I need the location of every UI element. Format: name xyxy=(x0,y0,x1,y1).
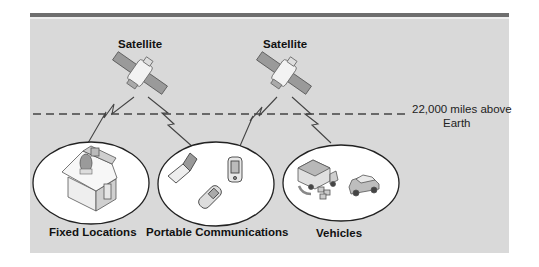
top-band-highlight xyxy=(30,17,509,19)
top-band xyxy=(30,13,509,17)
group-label-portable-communications: Portable Communications xyxy=(146,226,289,238)
group-label-vehicles: Vehicles xyxy=(316,227,362,239)
satellite-label-2: Satellite xyxy=(263,38,307,50)
group-label-fixed-locations: Fixed Locations xyxy=(49,226,137,238)
satellite-dish-icon xyxy=(80,154,92,174)
orbit-label-line1: 22,000 miles above xyxy=(412,103,512,115)
satellite-communications-diagram: 22,000 miles above Earth Satellite Satel… xyxy=(0,0,539,267)
pda-icon xyxy=(228,157,242,182)
satellite-label-1: Satellite xyxy=(118,38,162,50)
orbit-label-line2: Earth xyxy=(443,117,471,129)
vehicles-ellipse xyxy=(283,145,399,221)
portable-communications-ellipse xyxy=(158,142,274,226)
